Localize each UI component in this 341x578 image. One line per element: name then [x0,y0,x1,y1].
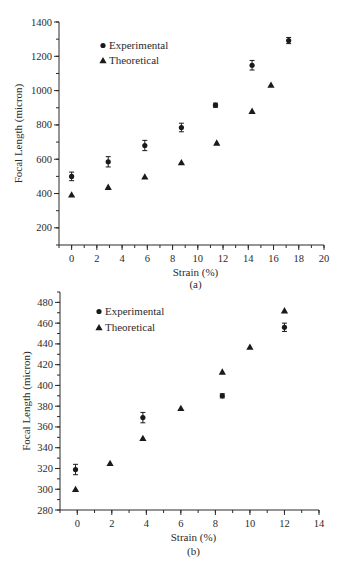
x-tick-label: 12 [218,253,229,264]
data-point-circle [249,63,254,68]
y-tick-label: 300 [37,484,53,495]
data-point-triangle [141,173,148,179]
data-point-triangle [213,139,220,145]
y-tick-label: 280 [37,505,53,516]
legend-circle-icon [96,309,101,314]
x-tick-label: 0 [69,253,74,264]
y-tick-label: 440 [37,338,53,349]
y-tick-label: 420 [37,359,53,370]
x-tick-label: 4 [144,518,150,529]
x-tick-label: 2 [109,518,114,529]
panel-label: (b) [187,545,200,558]
data-point-circle [213,103,218,108]
y-tick-label: 200 [36,222,52,233]
data-point-circle [220,393,225,398]
x-axis-title: Strain (%) [171,531,217,544]
data-point-circle [286,38,291,43]
x-tick-label: 0 [75,518,80,529]
legend-item: Theoretical [95,321,155,333]
x-tick-label: 6 [178,518,183,529]
y-tick-label: 1000 [31,85,52,96]
data-point-circle [179,125,184,130]
data-point-circle [106,159,111,164]
y-tick-label: 1400 [31,17,52,28]
x-tick-label: 12 [279,518,290,529]
x-tick-label: 16 [268,253,279,264]
y-tick-label: 800 [36,119,52,130]
x-tick-label: 20 [319,253,330,264]
legend-triangle-icon [99,57,106,63]
legend-label: Theoretical [109,54,159,66]
series-experimental [73,323,287,475]
data-point-triangle [139,435,146,441]
data-point-triangle [281,307,288,313]
legend-item: Experimental [96,305,164,317]
x-tick-label: 6 [145,253,150,264]
panel-label: (a) [189,278,202,290]
data-point-triangle [246,343,253,349]
series-theoretical [72,307,288,492]
chart-panel-b: 0246810121428030032034036038040042044046… [0,290,341,578]
x-tick-label: 8 [170,253,175,264]
x-tick-label: 14 [243,253,254,264]
data-point-circle [142,143,147,148]
data-point-triangle [248,108,255,114]
data-point-triangle [267,82,274,88]
data-point-triangle [72,486,79,492]
y-tick-label: 320 [37,463,53,474]
legend-label: Experimental [105,305,164,317]
y-tick-label: 600 [36,154,52,165]
data-point-circle [69,174,74,179]
data-point-triangle [178,159,185,165]
x-tick-label: 10 [193,253,204,264]
data-point-circle [73,467,78,472]
x-tick-label: 10 [245,518,256,529]
data-point-triangle [106,460,113,466]
x-tick-label: 8 [213,518,218,529]
data-point-triangle [105,184,112,190]
y-tick-label: 460 [37,318,53,329]
y-tick-label: 480 [37,297,53,308]
data-point-triangle [177,405,184,411]
y-axis-title: Focal Length (micron) [20,351,33,451]
data-point-triangle [68,191,75,197]
scatter-plot-b: 0246810121428030032034036038040042044046… [0,290,341,578]
y-tick-label: 340 [37,442,53,453]
data-point-circle [140,415,145,420]
data-point-circle [282,325,287,330]
legend-item: Experimental [100,39,168,51]
y-tick-label: 400 [36,188,52,199]
y-tick-label: 360 [37,421,53,432]
legend-label: Theoretical [105,321,155,333]
y-tick-label: 1200 [31,51,52,62]
y-tick-label: 380 [37,401,53,412]
x-tick-label: 4 [119,253,125,264]
legend-item: Theoretical [99,54,159,66]
chart-panel-a: 0246810121416182020040060080010001200140… [0,0,341,290]
x-tick-label: 2 [94,253,99,264]
y-tick-label: 400 [37,380,53,391]
x-tick-label: 14 [314,518,325,529]
legend-circle-icon [100,43,105,48]
x-tick-label: 18 [294,253,305,264]
scatter-plot-a: 0246810121416182020040060080010001200140… [0,0,341,290]
legend-label: Experimental [109,39,168,51]
legend-triangle-icon [95,324,102,330]
data-point-triangle [219,368,226,374]
series-theoretical [68,82,275,198]
y-axis-title: Focal Length (micron) [12,83,25,183]
